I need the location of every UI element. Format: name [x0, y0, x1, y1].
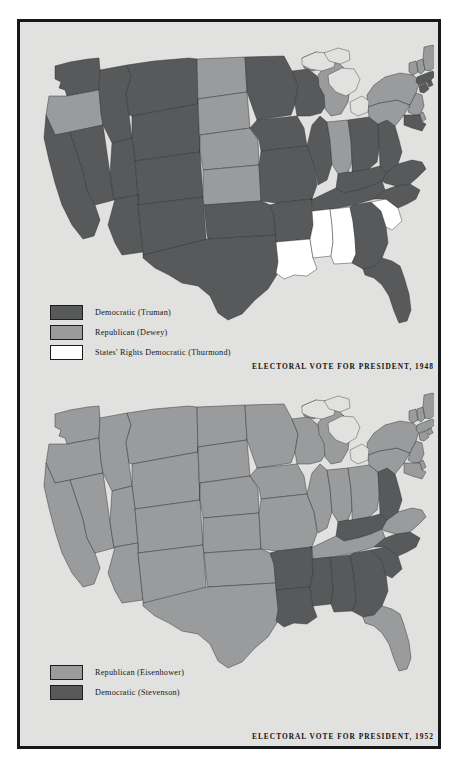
- state-ks: [203, 513, 261, 553]
- legend-label-states-rights: States' Rights Democratic (Thurmond): [95, 348, 231, 357]
- us-electoral-map-1952: [24, 388, 434, 688]
- legend-item-republican-1952: Republican (Eisenhower): [50, 665, 184, 680]
- state-az: [108, 195, 143, 255]
- great-lake-3: [350, 96, 369, 116]
- great-lake-3: [350, 444, 369, 464]
- legend-swatch-democratic: [50, 685, 83, 700]
- state-ok: [204, 549, 276, 587]
- state-ms: [310, 209, 333, 258]
- legend-label-democratic: Democratic (Stevenson): [95, 688, 180, 697]
- state-vt: [409, 61, 418, 75]
- legend-label-democratic: Democratic (Truman): [95, 308, 171, 317]
- state-fl: [363, 258, 411, 323]
- state-ms: [310, 557, 333, 606]
- us-electoral-map-1948: [24, 40, 434, 340]
- figure-inner-background: Democratic (Truman) Republican (Dewey) S…: [20, 22, 438, 746]
- state-co: [135, 152, 203, 205]
- state-ok: [204, 201, 276, 239]
- legend-swatch-democratic: [50, 305, 83, 320]
- state-oh: [348, 117, 380, 172]
- state-mn: [245, 404, 298, 468]
- state-wa: [55, 58, 100, 96]
- state-fl: [363, 606, 411, 671]
- legend-swatch-republican: [50, 325, 83, 340]
- page-root: Democratic (Truman) Republican (Dewey) S…: [0, 0, 458, 767]
- legend-item-republican-1948: Republican (Dewey): [50, 325, 231, 340]
- legend-swatch-republican: [50, 665, 83, 680]
- legend-swatch-states-rights: [50, 345, 83, 360]
- state-ar: [270, 547, 313, 590]
- figure-frame: Democratic (Truman) Republican (Dewey) S…: [17, 19, 441, 749]
- state-ks: [203, 165, 261, 205]
- map-title-1952: ELECTORAL VOTE FOR PRESIDENT, 1952: [252, 732, 434, 741]
- state-ne: [200, 476, 259, 518]
- state-mo: [259, 494, 317, 551]
- legend-1952: Republican (Eisenhower) Democratic (Stev…: [50, 665, 184, 705]
- legend-item-democratic-1952: Democratic (Stevenson): [50, 685, 184, 700]
- state-ia: [250, 464, 307, 499]
- state-ar: [270, 199, 313, 242]
- legend-item-states-rights-1948: States' Rights Democratic (Thurmond): [50, 345, 231, 360]
- state-ia: [250, 116, 307, 151]
- state-me: [423, 45, 434, 71]
- legend-label-republican: Republican (Dewey): [95, 328, 167, 337]
- state-ne: [200, 128, 259, 170]
- state-mn: [245, 56, 298, 120]
- state-mo: [259, 146, 317, 203]
- state-az: [108, 543, 143, 603]
- legend-1948: Democratic (Truman) Republican (Dewey) S…: [50, 305, 231, 365]
- map-title-1948: ELECTORAL VOTE FOR PRESIDENT, 1948: [252, 362, 434, 371]
- state-wa: [55, 406, 100, 444]
- state-vt: [409, 409, 418, 423]
- legend-item-democratic-1948: Democratic (Truman): [50, 305, 231, 320]
- state-co: [135, 500, 203, 553]
- state-me: [423, 393, 434, 419]
- state-oh: [348, 465, 380, 520]
- legend-label-republican: Republican (Eisenhower): [95, 668, 184, 677]
